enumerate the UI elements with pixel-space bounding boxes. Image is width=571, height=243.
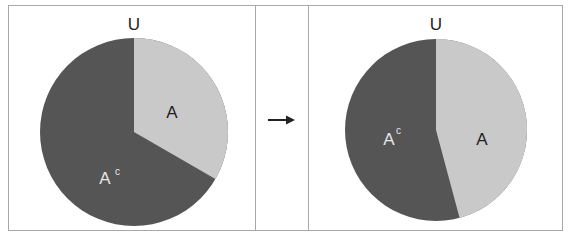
left-complement-label: A <box>99 169 111 188</box>
left-universe-label: U <box>128 15 140 34</box>
diagram-canvas: U A A c U A A c <box>0 0 571 243</box>
right-arrow-icon <box>268 116 295 125</box>
right-universe-label: U <box>430 15 442 34</box>
right-pie: U A A c <box>345 15 527 221</box>
right-complement-label: A <box>383 130 395 149</box>
left-set-a-label: A <box>166 103 178 122</box>
left-complement-superscript: c <box>115 166 120 177</box>
left-pie: U A A c <box>40 15 228 226</box>
right-complement-superscript: c <box>396 125 401 136</box>
right-set-a-label: A <box>476 130 488 149</box>
